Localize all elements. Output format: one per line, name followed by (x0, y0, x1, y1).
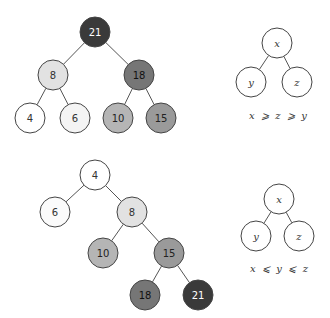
tree-edge (37, 88, 46, 105)
max-heap-tree: 21818461015 (15, 17, 176, 133)
max-heap-schema: xyzx ⩾ z ⩾ y (236, 28, 312, 121)
node-label: 15 (163, 248, 176, 259)
tree-edge (60, 88, 68, 104)
node-label: 8 (129, 207, 135, 218)
tree-edge (264, 212, 271, 224)
node-label: 15 (155, 113, 168, 124)
tree-edge (284, 56, 290, 68)
node-label: 10 (112, 113, 125, 124)
node-label: 21 (89, 27, 102, 38)
node-label: 10 (97, 248, 110, 259)
tree-edge (142, 223, 159, 242)
node-label: 8 (50, 70, 56, 81)
tree-edge (106, 42, 129, 64)
tree-edge (63, 43, 84, 65)
node-label: z (295, 231, 302, 242)
node-label: 18 (139, 290, 152, 301)
heap-diagram-canvas: 21818461015 xyzx ⩾ z ⩾ y 46810151821 xyz… (0, 0, 330, 318)
node-label: 6 (52, 207, 58, 218)
node-label: x (276, 194, 282, 205)
heap-property-relation: x ⩽ y ⩽ z (250, 263, 309, 274)
min-heap-schema: xyzx ⩽ y ⩽ z (241, 184, 314, 274)
tree-edge (259, 55, 268, 69)
tree-edge (152, 266, 161, 282)
node-label: y (247, 77, 254, 88)
tree-edge (106, 186, 122, 202)
node-label: 4 (27, 113, 33, 124)
node-label: 18 (133, 70, 146, 81)
tree-edge (146, 88, 154, 104)
node-label: y (252, 231, 259, 242)
tree-edge (178, 265, 190, 282)
tree-edge (125, 88, 133, 104)
node-label: 6 (72, 113, 78, 124)
node-label: z (293, 77, 300, 88)
tree-edge (112, 224, 124, 241)
node-label: x (274, 38, 280, 49)
tree-edge (66, 185, 84, 202)
node-label: 21 (192, 290, 205, 301)
min-heap-tree: 46810151821 (40, 160, 213, 310)
node-label: 4 (92, 170, 98, 181)
heap-property-relation: x ⩾ z ⩾ y (249, 110, 307, 121)
tree-edge (286, 212, 292, 223)
